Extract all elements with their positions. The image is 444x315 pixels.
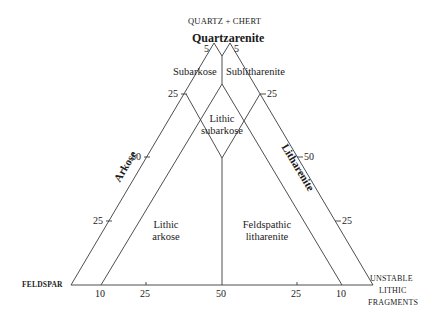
tick-label-right-5: 5 [234,44,239,54]
field-feldspathic-litharenite-line2: litharenite [235,231,299,243]
vertex-label-feldspar: FELDSPAR [22,281,63,289]
field-quartzarenite: Quartzarenite [192,32,264,44]
vertex-label-quartz-chert: QUARTZ + CHERT [188,17,261,26]
field-sublitharenite: Sublitharenite [226,66,285,78]
field-lithic-arkose-line1: Lithic [146,219,186,231]
tick-label-right-25-lower: 25 [342,216,352,226]
vertex-label-lithic: LITHIC [379,287,406,295]
base-tick-label: 50 [216,289,226,299]
tick-label-left-25-upper: 25 [168,89,178,99]
field-lithic-subarkose-line2: subarkose [194,125,250,137]
base-tick-label: 25 [291,289,301,299]
tick-label-left-50: 50 [131,152,141,162]
vertex-label-fragments: FRAGMENTS [368,299,418,307]
tick-label-left-25-lower: 25 [93,216,103,226]
tick-label-right-50: 50 [304,152,314,162]
base-tick-label: 10 [95,289,105,299]
base-tick-label: 25 [140,289,150,299]
field-subarkose: Subarkose [173,66,217,78]
tick-label-right-25-upper: 25 [267,89,277,99]
ternary-diagram [0,0,444,315]
vertex-label-unstable: UNSTABLE [370,275,413,283]
base-tick-label: 10 [336,289,346,299]
tick-label-left-5: 5 [204,44,209,54]
field-lithic-arkose-line2: arkose [146,231,186,243]
field-feldspathic-litharenite-line1: Feldspathic [235,219,299,231]
field-lithic-subarkose-line1: Lithic [202,113,242,125]
left-side-line [71,43,214,285]
